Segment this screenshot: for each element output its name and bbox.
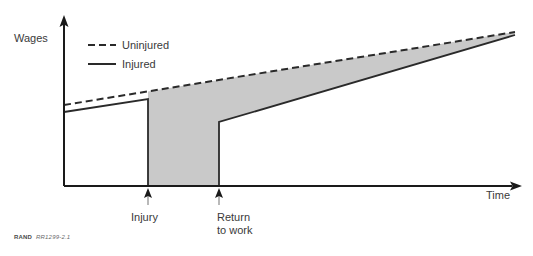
legend-label-uninjured: Uninjured: [122, 39, 169, 51]
wage-loss-chart: Wages Time Injury Return to work Uninjur…: [0, 0, 533, 256]
figure-container: Wages Time Injury Return to work Uninjur…: [0, 0, 533, 256]
shaded-wage-loss-region: [148, 32, 515, 186]
source-note-prefix: RAND: [14, 234, 33, 240]
legend-item-uninjured: Uninjured: [88, 39, 169, 51]
legend-item-injured: Injured: [88, 58, 156, 70]
x-axis-title: Time: [486, 189, 510, 201]
source-note-id: RR1299-2.1: [36, 234, 70, 240]
return-to-work-marker-label-line1: Return: [217, 211, 250, 223]
source-note: RAND RR1299-2.1: [14, 234, 70, 240]
injury-marker-label: Injury: [131, 211, 158, 223]
legend-label-injured: Injured: [122, 58, 156, 70]
return-to-work-marker-label-line2: to work: [217, 224, 253, 236]
y-axis-title: Wages: [14, 32, 48, 44]
legend: Uninjured Injured: [88, 39, 169, 70]
